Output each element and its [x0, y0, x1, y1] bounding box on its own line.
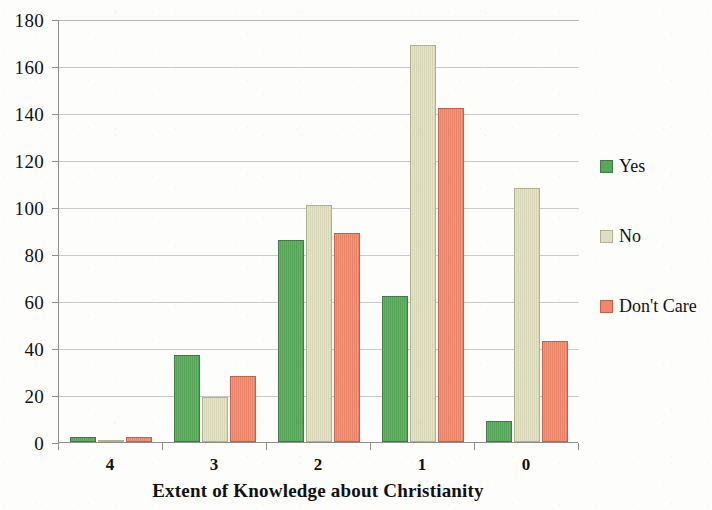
y-tick-label: 20: [0, 387, 44, 406]
y-tick-label: 40: [0, 340, 44, 359]
bar-chart: 020406080100120140160180 43210 Extent of…: [0, 0, 712, 510]
y-tick-label: 140: [0, 105, 44, 124]
legend-item-dont-care: Don't Care: [600, 295, 712, 317]
bar-yes-0: [486, 421, 512, 442]
x-tick-mark: [578, 443, 579, 450]
x-tick-mark: [370, 443, 371, 450]
bar-yes-4: [70, 437, 96, 442]
x-tick-mark: [58, 443, 59, 450]
gridline: [59, 114, 579, 115]
y-tick-label: 100: [0, 199, 44, 218]
legend-item-no: No: [600, 225, 712, 247]
bar-yes-3: [174, 355, 200, 442]
x-tick-label: 4: [80, 455, 140, 475]
x-axis-title: Extent of Knowledge about Christianity: [58, 480, 578, 502]
chart-legend: Yes No Don't Care: [600, 155, 712, 365]
legend-label-no: No: [619, 227, 641, 245]
bar-don-t-care-4: [126, 437, 152, 442]
bar-don-t-care-1: [438, 108, 464, 442]
bar-no-2: [306, 205, 332, 442]
x-tick-mark: [266, 443, 267, 450]
y-tick-label: 180: [0, 11, 44, 30]
legend-swatch-no-icon: [600, 230, 613, 243]
y-tick-label: 0: [0, 434, 44, 453]
x-tick-label: 0: [496, 455, 556, 475]
bar-no-4: [98, 440, 124, 442]
legend-swatch-dont-care-icon: [600, 300, 613, 313]
legend-label-dont-care: Don't Care: [619, 297, 697, 315]
plot-area: [58, 20, 578, 443]
x-tick-label: 1: [392, 455, 452, 475]
bar-no-3: [202, 397, 228, 442]
y-tick-label: 80: [0, 246, 44, 265]
x-tick-mark: [474, 443, 475, 450]
legend-label-yes: Yes: [619, 157, 645, 175]
legend-swatch-yes-icon: [600, 160, 613, 173]
bar-no-1: [410, 45, 436, 442]
y-tick-label: 120: [0, 152, 44, 171]
legend-item-yes: Yes: [600, 155, 712, 177]
bar-no-0: [514, 188, 540, 442]
bar-don-t-care-2: [334, 233, 360, 442]
gridline: [59, 20, 579, 21]
y-tick-label: 60: [0, 293, 44, 312]
gridline: [59, 67, 579, 68]
bar-yes-1: [382, 296, 408, 442]
gridline: [59, 161, 579, 162]
x-tick-label: 3: [184, 455, 244, 475]
y-tick-label: 160: [0, 58, 44, 77]
x-tick-mark: [162, 443, 163, 450]
bar-don-t-care-0: [542, 341, 568, 442]
bar-don-t-care-3: [230, 376, 256, 442]
x-tick-label: 2: [288, 455, 348, 475]
bar-yes-2: [278, 240, 304, 442]
